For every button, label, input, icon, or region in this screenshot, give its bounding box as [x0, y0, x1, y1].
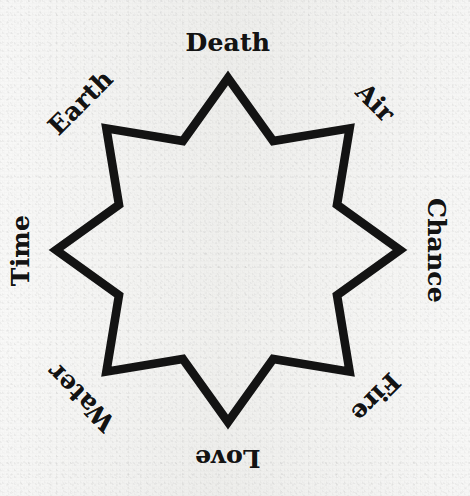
star-label-chance: Chance: [421, 198, 450, 303]
star-label-time: Time: [6, 214, 35, 285]
octagram-outline: [56, 78, 400, 422]
star-label-death: Death: [186, 28, 271, 57]
octagram-star-shape: [0, 0, 470, 496]
octagram-figure: DeathAirChanceFireLoveWaterTimeEarth: [0, 0, 470, 496]
star-label-love: Love: [195, 444, 261, 473]
